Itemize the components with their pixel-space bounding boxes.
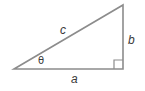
opposite-side-label: b: [128, 34, 135, 46]
adjacent-side-label: a: [71, 73, 78, 85]
triangle-outline: [14, 5, 123, 69]
hypotenuse-label: c: [60, 24, 66, 36]
angle-theta-label: θ: [38, 56, 44, 66]
right-angle-marker: [114, 60, 123, 69]
right-triangle-diagram: c b a θ: [0, 0, 145, 91]
